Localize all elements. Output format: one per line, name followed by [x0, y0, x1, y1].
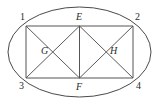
- vertex-label-f: F: [76, 82, 82, 92]
- vertex-label-e: E: [76, 12, 82, 22]
- vertex-label-4: 4: [136, 81, 141, 91]
- vertex-label-3: 3: [19, 81, 24, 91]
- vertex-label-g: G: [41, 46, 48, 56]
- geometry-figure: 1 2 3 4 E F G H: [0, 0, 160, 104]
- vertex-label-2: 2: [135, 12, 140, 22]
- vertex-label-h: H: [110, 46, 117, 56]
- vertex-label-1: 1: [20, 12, 25, 22]
